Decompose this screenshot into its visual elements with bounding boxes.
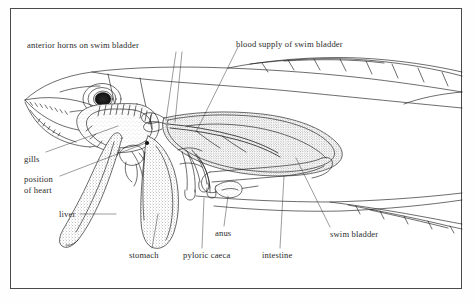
label-gills: gills	[24, 154, 40, 165]
label-position-of-heart-line2: of heart	[24, 185, 52, 196]
anatomy-figure: anterior horns on swim bladder blood sup…	[0, 0, 475, 303]
swim-bladder	[162, 112, 342, 176]
stomach	[141, 136, 179, 248]
label-intestine: intestine	[262, 250, 292, 261]
label-anus: anus	[215, 228, 231, 239]
label-pyloric-caeca: pyloric caeca	[183, 250, 231, 261]
label-blood-supply: blood supply of swim bladder	[236, 39, 343, 50]
anus	[215, 181, 242, 198]
label-position-of-heart-line1: position	[24, 174, 53, 185]
label-swim-bladder: swim bladder	[330, 229, 378, 240]
liver	[60, 133, 122, 248]
label-liver: liver	[59, 209, 76, 220]
label-stomach: stomach	[129, 250, 159, 261]
dorsal-fin	[228, 57, 462, 86]
label-anterior-horns: anterior horns on swim bladder	[27, 40, 139, 51]
